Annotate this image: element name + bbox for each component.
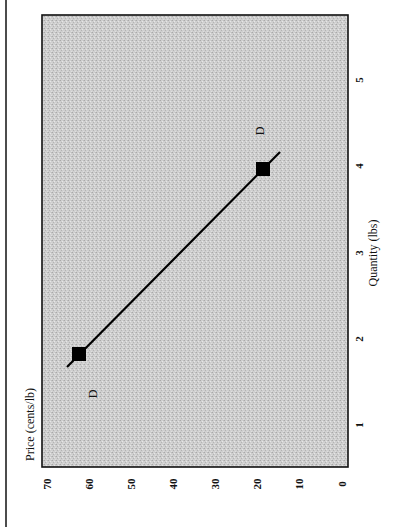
quantity-axis-ticks: 1 2 3 4 5 [353, 77, 365, 428]
price-axis-ticks: 70 60 50 40 30 20 10 0 [41, 478, 348, 490]
demand-label-lower: D [86, 389, 100, 398]
tick-price-0: 0 [336, 481, 348, 487]
demand-point-marker-2 [256, 162, 270, 176]
tick-quantity-5: 5 [353, 77, 365, 83]
demand-point-marker-1 [72, 347, 86, 361]
demand-chart: 70 60 50 40 30 20 10 0 1 2 3 4 5 Price (… [0, 0, 399, 527]
tick-quantity-4: 4 [353, 163, 365, 169]
tick-quantity-2: 2 [353, 336, 365, 342]
price-axis-title: Price (cents/lb) [23, 388, 37, 461]
tick-price-60: 60 [83, 478, 95, 490]
quantity-axis-title: Quantity (lbs) [366, 220, 380, 287]
tick-quantity-3: 3 [353, 250, 365, 256]
tick-price-20: 20 [251, 478, 263, 490]
tick-quantity-1: 1 [353, 422, 365, 428]
tick-price-70: 70 [41, 478, 53, 490]
tick-price-50: 50 [125, 478, 137, 490]
tick-price-30: 30 [209, 478, 221, 490]
tick-price-10: 10 [293, 478, 305, 490]
demand-label-upper: D [253, 126, 267, 135]
tick-price-40: 40 [167, 478, 179, 490]
